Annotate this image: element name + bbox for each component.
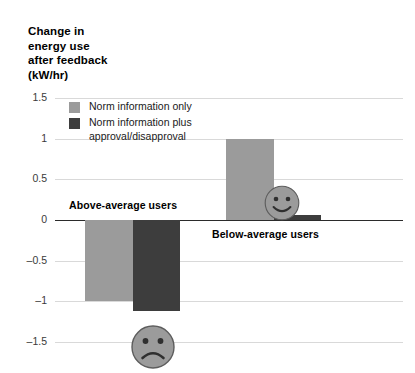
y-tick-label: 0 — [13, 213, 47, 225]
y-tick-label: 0.5 — [13, 172, 47, 184]
legend-swatch-icon — [69, 118, 80, 129]
gridline — [55, 342, 403, 343]
y-tick-label: –1 — [13, 294, 47, 306]
legend-item-norm-information-only: Norm information only — [69, 100, 192, 113]
legend-item-label: Norm information only — [89, 100, 192, 113]
legend: Norm information only Norm information p… — [69, 100, 192, 146]
y-tick-label: –1.5 — [13, 335, 47, 347]
bar — [85, 220, 133, 301]
group-label-above-average: Above-average users — [69, 199, 177, 211]
axis-title: Change in energy use after feedback (kW/… — [28, 24, 107, 82]
legend-swatch-icon — [69, 102, 80, 113]
y-tick-label: 1.5 — [13, 91, 47, 103]
happy-face-icon — [262, 183, 302, 227]
sad-face-icon — [128, 322, 178, 373]
gridline — [55, 301, 403, 302]
legend-item-norm-information-plus-approval: Norm information plus approval/disapprov… — [69, 116, 192, 143]
group-label-below-average: Below-average users — [212, 228, 319, 240]
y-tick-label: 1 — [13, 132, 47, 144]
legend-item-label: Norm information plus approval/disapprov… — [89, 116, 192, 143]
gridline — [55, 98, 403, 99]
y-tick-label: –0.5 — [13, 254, 47, 266]
bar — [133, 220, 181, 311]
